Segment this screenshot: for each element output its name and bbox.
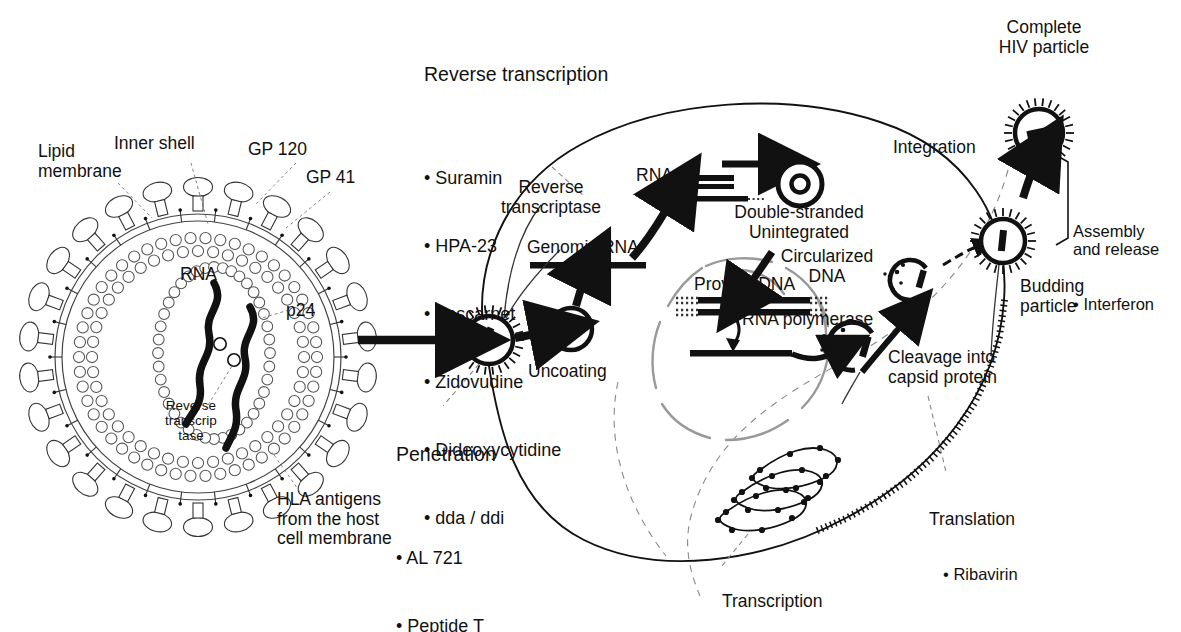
assembly-bracket: [1056, 155, 1068, 245]
label-rna-polymerase: RNA polymerase: [742, 310, 873, 330]
callout-title: Penetration: [396, 444, 525, 466]
drug-item: • AL 721: [396, 547, 525, 570]
label-lipid-membrane: Lipid membrane: [38, 142, 122, 181]
label-p24: p24: [286, 301, 315, 321]
drug-list: • AL 721 • Peptide T • CD4+ • dextran su…: [396, 501, 525, 632]
circular-dsdna: [778, 162, 822, 206]
callout-assembly-release: Assembly and release • Interferon: [1073, 186, 1159, 349]
label-gp41: GP 41: [306, 168, 355, 188]
callout-title: Assembly and release: [1073, 222, 1159, 259]
callout-title: Translation: [929, 510, 1018, 530]
callout-transcription: Transcription • Ribavirin: [722, 556, 823, 632]
label-integration: Integration: [893, 138, 976, 158]
label-hla-antigens: HLA antigens from the host cell membrane: [277, 490, 392, 549]
callout-penetration: Penetration • AL 721 • Peptide T • CD4+ …: [396, 408, 525, 632]
label-inner-shell: Inner shell: [114, 134, 195, 154]
label-reverse-transcriptase: Reverse transcriptase: [497, 178, 605, 217]
drug-item: • Foscarnet: [424, 303, 608, 326]
label-genomic-rna: Genomic RNA: [527, 238, 639, 258]
callout-title: Reverse transcription: [424, 64, 608, 86]
label-complete-hiv-particle: Complete HIV particle: [976, 18, 1112, 57]
label-dna: DNA: [650, 190, 687, 210]
callout-translation: Translation • Ribavirin: [929, 474, 1018, 620]
label-proviral-dna: Proviral DNA: [694, 275, 795, 295]
label-reverse-transcriptase-virion: Reverse transcrip tase: [143, 398, 239, 443]
drug-item: • Ribavirin: [943, 565, 1018, 583]
label-virion-rna: RNA: [180, 265, 217, 285]
label-double-stranded-unintegrated: Double-stranded Unintegrated: [716, 203, 882, 242]
complete-hiv-particle: [1004, 98, 1074, 167]
drug-item: • Interferon: [1073, 295, 1159, 313]
label-uncoating: Uncoating: [528, 362, 607, 382]
budding-particle: [970, 208, 1036, 274]
hiv-lifecycle-diagram: Lipid membrane Inner shell GP 120 GP 41 …: [0, 0, 1181, 632]
label-cleavage-into-capsid-protein: Cleavage into capsid protein: [888, 348, 997, 387]
hiv-virion-graphic: [18, 163, 378, 537]
callout-title: Transcription: [722, 592, 823, 612]
label-rna: RNA: [636, 166, 673, 186]
drug-item: • Peptide T: [396, 615, 525, 632]
label-gp120: GP 120: [248, 140, 307, 160]
